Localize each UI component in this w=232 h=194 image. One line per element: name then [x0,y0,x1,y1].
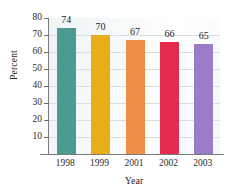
bars-layer: 7470676665 [49,18,220,154]
bar-group[interactable]: 67 [126,18,145,154]
y-axis-tick-label: 20 [22,115,42,125]
y-axis-tick-label: 70 [22,30,42,40]
bar-chart-figure: Percent 8070605040302010 7470676665 1998… [0,0,232,194]
x-axis-tick-label: 1999 [82,158,116,169]
x-axis-title: Year [48,175,220,186]
bar[interactable] [126,40,145,154]
bar-value-label: 66 [151,29,188,39]
x-axis-tick-label: 2001 [117,158,151,169]
bar-group[interactable]: 74 [57,18,76,154]
x-axis-line [40,154,224,155]
y-axis-tick-label: 80 [22,13,42,23]
y-axis-tick-label: 10 [22,132,42,142]
y-axis-tick-label: 50 [22,64,42,74]
bar[interactable] [194,44,213,155]
y-axis-tick-labels: 8070605040302010 [22,18,42,154]
y-axis-tick-label: 40 [22,81,42,91]
x-axis-tick-label: 2003 [186,158,220,169]
bar-group[interactable]: 66 [160,18,179,154]
bar[interactable] [57,28,76,154]
y-axis-title: Percent [9,29,19,101]
bar-value-label: 70 [82,22,119,32]
bar-value-label: 67 [117,27,154,37]
bar-value-label: 65 [185,31,222,41]
x-axis-tick-label: 1998 [48,158,82,169]
bar-group[interactable]: 65 [194,18,213,154]
x-axis-tick-label: 2002 [151,158,185,169]
y-axis-tick-label: 60 [22,47,42,57]
bar-group[interactable]: 70 [91,18,110,154]
x-axis-tick-labels: 19981999200120022003 [48,158,220,172]
bar[interactable] [160,42,179,154]
y-axis-tick-label: 30 [22,98,42,108]
bar[interactable] [91,35,110,154]
bar-value-label: 74 [48,15,85,25]
plot-area: 7470676665 [48,18,220,154]
